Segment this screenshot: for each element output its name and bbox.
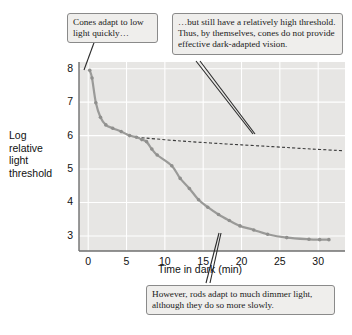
y-axis-title-line-2: relative bbox=[9, 142, 67, 155]
data-point bbox=[99, 115, 103, 119]
plot-area bbox=[79, 62, 345, 251]
figure-root: Log relative light threshold 345678 0510… bbox=[0, 0, 352, 335]
callout-rods-dimmer: However, rods adapt to much dimmer light… bbox=[146, 285, 335, 315]
data-point bbox=[252, 228, 256, 232]
y-tick-label: 8 bbox=[59, 62, 73, 74]
x-axis-title: Time in dark (min) bbox=[110, 263, 290, 275]
data-point bbox=[197, 198, 201, 202]
data-point bbox=[266, 232, 270, 236]
y-tick-label: 5 bbox=[59, 162, 73, 174]
data-point bbox=[119, 130, 123, 134]
y-tick-label: 6 bbox=[59, 129, 73, 141]
data-point bbox=[188, 187, 192, 191]
y-tick-label: 7 bbox=[59, 95, 73, 107]
data-point bbox=[104, 123, 108, 127]
data-point bbox=[140, 138, 144, 142]
data-point bbox=[307, 237, 311, 241]
data-point bbox=[111, 126, 115, 130]
callout-cone-high-threshold: …but still have a relatively high thresh… bbox=[172, 13, 343, 55]
data-point bbox=[178, 177, 182, 181]
data-point bbox=[155, 153, 159, 157]
data-point bbox=[285, 236, 289, 240]
data-point bbox=[150, 147, 154, 151]
data-point bbox=[94, 101, 98, 105]
callout-cones-fast: Cones adapt to low light quickly… bbox=[67, 13, 158, 43]
data-point bbox=[128, 134, 132, 138]
y-tick-label: 3 bbox=[59, 229, 73, 241]
data-point bbox=[238, 224, 242, 228]
data-point bbox=[318, 238, 322, 242]
data-point bbox=[135, 135, 139, 139]
x-tick-label: 0 bbox=[79, 255, 97, 267]
data-point bbox=[227, 219, 231, 223]
data-point bbox=[90, 76, 94, 80]
y-tick-label: 4 bbox=[59, 195, 73, 207]
plot-background bbox=[79, 62, 345, 251]
data-point bbox=[206, 205, 210, 209]
data-point bbox=[145, 140, 149, 144]
data-point bbox=[327, 238, 331, 242]
data-point bbox=[88, 69, 92, 73]
data-point bbox=[170, 164, 174, 168]
x-tick-label: 30 bbox=[309, 255, 327, 267]
data-point bbox=[217, 213, 221, 217]
